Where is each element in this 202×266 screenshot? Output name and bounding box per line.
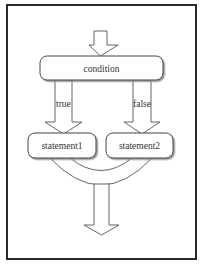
false-branch-label: false [133,99,151,109]
if-else-flowchart: true false condition statement1 statemen… [0,0,202,266]
statement2-label: statement2 [119,141,160,151]
statement2-node: statement2 [106,133,173,158]
statement1-node: statement1 [28,133,96,158]
statement1-label: statement1 [41,141,82,151]
condition-node: condition [40,56,163,80]
condition-label: condition [84,64,120,74]
true-branch-label: true [56,99,71,109]
